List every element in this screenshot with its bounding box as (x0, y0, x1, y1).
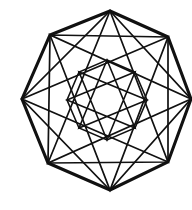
geometric-figure-canvas (0, 0, 192, 210)
